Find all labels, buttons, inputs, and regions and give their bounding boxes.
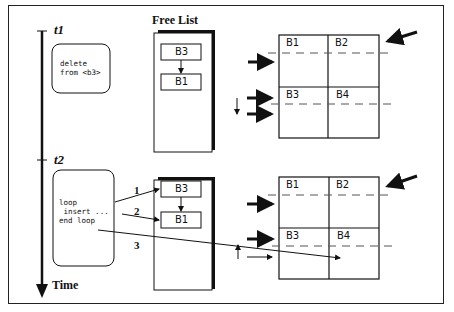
free-list-bottom-item-0: B3	[175, 183, 188, 194]
grid-top	[237, 32, 417, 138]
grid-bottom-b1: B1	[286, 179, 299, 190]
diagram-graphics	[0, 0, 454, 312]
time-axis	[36, 31, 48, 298]
grid-top-b3: B3	[286, 89, 299, 100]
time-arrow-icon	[36, 284, 48, 298]
t2-label: t2	[54, 152, 64, 168]
step-label-3: 3	[134, 239, 140, 251]
code-top: delete from <b3>	[60, 59, 101, 77]
free-list-bottom-item-1: B1	[175, 214, 188, 225]
free-list-top-item-0: B3	[175, 46, 188, 57]
grid-top-b4: B4	[336, 89, 349, 100]
code-bottom: loop insert ... end loop	[59, 198, 109, 225]
grid-top-b2: B2	[335, 37, 348, 48]
step-label-2: 2	[134, 205, 140, 217]
time-axis-label: Time	[52, 278, 78, 293]
free-list-title: Free List	[152, 13, 198, 28]
grid-bottom	[238, 176, 417, 279]
step-label-1: 1	[134, 184, 140, 196]
grid-bottom-b3: B3	[286, 230, 299, 241]
grid-top-b1: B1	[286, 37, 299, 48]
free-list-top-item-1: B1	[175, 76, 188, 87]
grid-bottom-b2: B2	[336, 179, 349, 190]
t1-label: t1	[54, 22, 64, 38]
grid-bottom-b4: B4	[337, 230, 350, 241]
